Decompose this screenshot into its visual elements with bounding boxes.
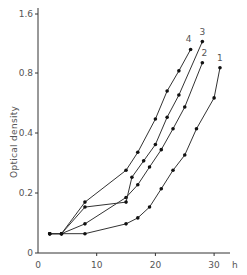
data-point (189, 48, 193, 52)
data-point (183, 105, 187, 109)
y-tick-label: 0 (27, 248, 33, 258)
y-axis-label: Optical density (9, 105, 19, 178)
x-tick-label: 30 (208, 260, 220, 270)
data-point (159, 187, 163, 191)
y-tick-label: 0.4 (19, 128, 34, 138)
data-point (212, 96, 216, 100)
x-axis-unit: h (232, 260, 238, 270)
data-point (165, 89, 169, 93)
data-point (154, 143, 158, 147)
data-point (142, 159, 146, 163)
series-line (50, 49, 191, 233)
series-label: 4 (186, 34, 192, 44)
data-point (48, 232, 52, 236)
data-point (124, 222, 128, 226)
x-tick-label: 0 (35, 260, 41, 270)
axes: 00.20.40.81.60102030 (19, 8, 230, 270)
data-point (177, 93, 181, 97)
series-3: 3 (48, 27, 205, 236)
data-point (195, 127, 199, 131)
series-1: 1 (48, 53, 223, 236)
data-point (136, 151, 140, 155)
y-tick-label: 0.8 (19, 68, 34, 78)
y-tick-label: 0.2 (19, 188, 33, 198)
series-label: 2 (201, 48, 207, 58)
x-tick-label: 20 (150, 260, 162, 270)
data-point (130, 175, 134, 179)
data-point (136, 183, 140, 187)
data-point (171, 127, 175, 131)
series-label: 3 (199, 27, 205, 37)
data-point (177, 69, 181, 73)
data-point (171, 168, 175, 172)
data-point (183, 153, 187, 157)
data-point (201, 40, 205, 44)
data-point (148, 165, 152, 169)
series-4: 4 (48, 34, 192, 235)
y-tick-label: 1.6 (19, 9, 34, 19)
data-point (148, 205, 152, 209)
data-point (218, 66, 222, 70)
data-point (165, 115, 169, 119)
data-point (83, 222, 87, 226)
data-point (83, 205, 87, 209)
series-line (50, 68, 220, 234)
data-point (124, 168, 128, 172)
data-point (136, 216, 140, 220)
series-group: 1234 (48, 27, 223, 236)
data-point (154, 117, 158, 121)
chart: 00.20.40.81.60102030 1234 Optical densit… (0, 0, 247, 275)
data-point (124, 200, 128, 204)
data-point (83, 200, 87, 204)
x-tick-label: 10 (91, 260, 103, 270)
data-point (159, 148, 163, 152)
series-label: 1 (217, 53, 223, 63)
series-2: 2 (48, 48, 207, 236)
data-point (83, 232, 87, 236)
data-point (201, 61, 205, 65)
series-line (50, 63, 203, 234)
data-point (60, 232, 64, 236)
